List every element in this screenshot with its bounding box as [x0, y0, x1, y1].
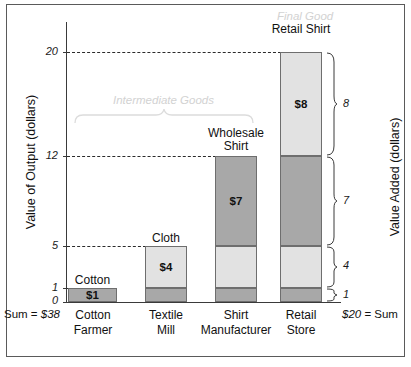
brace-label-1: 1	[343, 288, 349, 300]
segment-cotton-1: $1	[68, 288, 117, 302]
segment-retail-cotton	[280, 288, 322, 302]
y-tick-label-1: 1	[32, 281, 58, 293]
segment-label-cotton: $1	[86, 289, 99, 301]
bar-cap-cloth: Cloth	[145, 232, 187, 245]
bar-textile-mill: $4	[145, 246, 187, 302]
brace-7	[326, 156, 338, 246]
y-tick-label-20: 20	[32, 45, 58, 57]
segment-retail-cloth	[280, 246, 322, 288]
sum-right-suffix: = Sum	[361, 308, 398, 320]
annotation-final-good: Final Good	[277, 10, 333, 22]
bar-cap-retail: Retail Shirt	[268, 23, 334, 36]
segment-label-wholesale: $7	[229, 195, 242, 207]
y-axis-line	[66, 22, 67, 303]
sum-left-value: $38	[41, 308, 60, 320]
segment-cloth-input	[145, 288, 187, 302]
brace-1	[326, 288, 338, 302]
category-label-textile-mill: Textile Mill	[135, 308, 197, 337]
gridline-5	[67, 246, 146, 247]
category-textile-mill-line2: Mill	[157, 323, 175, 337]
category-label-retail-store: Retail Store	[270, 308, 332, 337]
category-cotton-farmer-line1: Cotton	[75, 308, 110, 322]
sum-left-prefix: Sum =	[4, 308, 41, 320]
sum-left: Sum = $38	[4, 308, 70, 320]
y-tick-20	[63, 52, 67, 53]
segment-label-cloth: $4	[159, 261, 172, 273]
brace-label-7: 7	[343, 194, 349, 206]
brace-label-8: 8	[343, 97, 349, 109]
y-tick-5	[63, 246, 67, 247]
segment-retail-value-added: $8	[280, 52, 322, 156]
category-shirt-manufacturer-line1: Shirt	[224, 308, 249, 322]
category-shirt-manufacturer-line2: Manufacturer	[201, 323, 272, 337]
bar-cotton-farmer: $1	[68, 288, 117, 302]
gridline-20	[67, 52, 281, 53]
y-tick-label-0: 0	[32, 294, 58, 306]
segment-wholesale-value-added: $7	[215, 156, 257, 246]
bar-cap-wholesale: Wholesale Shirt	[205, 127, 267, 153]
bar-cap-wholesale-line2: Shirt	[224, 139, 249, 153]
bar-retail-store: $8	[280, 52, 322, 302]
brace-label-4: 4	[343, 259, 349, 271]
segment-wholesale-cloth	[215, 246, 257, 288]
intermediate-goods-brace	[74, 108, 254, 124]
annotation-intermediate-goods: Intermediate Goods	[113, 94, 214, 106]
brace-4	[326, 246, 338, 288]
sum-right: $20 = Sum	[342, 308, 398, 320]
category-retail-store-line2: Store	[287, 323, 316, 337]
y-axis-title-left: Value of Output (dollars)	[24, 67, 38, 257]
y-tick-12	[63, 156, 67, 157]
x-axis-line	[66, 302, 341, 303]
category-cotton-farmer-line2: Farmer	[74, 323, 113, 337]
y-tick-0	[63, 302, 67, 303]
plot-area: 20 12 5 1 0 Value of Output (dollars) Va…	[0, 0, 411, 367]
y-tick-1	[63, 288, 67, 289]
bar-shirt-manufacturer: $7	[215, 156, 257, 302]
category-label-shirt-manufacturer: Shirt Manufacturer	[194, 308, 278, 337]
segment-label-retail: $8	[294, 98, 307, 110]
value-added-chart: 20 12 5 1 0 Value of Output (dollars) Va…	[0, 0, 411, 367]
bar-cap-cotton: Cotton	[68, 274, 117, 287]
category-textile-mill-line1: Textile	[149, 308, 183, 322]
category-retail-store-line1: Retail	[286, 308, 317, 322]
gridline-12	[67, 156, 216, 157]
category-label-cotton-farmer: Cotton Farmer	[62, 308, 124, 337]
segment-cloth-value-added: $4	[145, 246, 187, 288]
sum-right-value: $20	[342, 308, 361, 320]
segment-retail-wholesale	[280, 156, 322, 246]
bar-cap-wholesale-line1: Wholesale	[208, 126, 264, 140]
segment-wholesale-cotton	[215, 288, 257, 302]
brace-8	[326, 52, 338, 156]
y-axis-title-right: Value Added (dollars)	[388, 82, 402, 272]
